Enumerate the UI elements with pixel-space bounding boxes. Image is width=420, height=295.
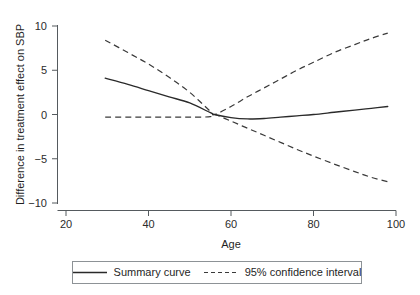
- y-tick-label-0: 0: [41, 109, 47, 121]
- series-line-summary-curve: [105, 78, 388, 119]
- legend-swatch-solid: [73, 269, 107, 276]
- y-tick-label-neg10: −10: [28, 197, 47, 209]
- chart-legend: Summary curve 95% confidence interval: [72, 261, 362, 284]
- x-tick-label-40: 40: [142, 218, 154, 230]
- y-axis: 10 5 0 −5 −10 Difference in treatment ef…: [14, 20, 58, 209]
- x-tick-label-60: 60: [225, 218, 237, 230]
- x-tick-label-80: 80: [307, 218, 319, 230]
- x-axis-title: Age: [221, 238, 241, 250]
- y-axis-ticks: [52, 26, 58, 203]
- legend-swatch-dashed: [204, 269, 238, 276]
- legend-entry-summary-curve: Summary curve: [73, 267, 191, 278]
- x-axis-tick-labels: 20 40 60 80 100: [60, 218, 405, 230]
- y-axis-tick-labels: 10 5 0 −5 −10: [28, 20, 47, 209]
- x-axis-ticks: [66, 211, 396, 217]
- y-tick-label-neg5: −5: [34, 153, 47, 165]
- legend-entry-confidence-interval: 95% confidence interval: [204, 267, 362, 278]
- legend-label-confidence-interval: 95% confidence interval: [245, 267, 362, 278]
- series-line-ci-upper: [105, 33, 388, 115]
- series-line-ci-lower: [105, 114, 388, 181]
- x-tick-label-100: 100: [387, 218, 405, 230]
- y-tick-label-10: 10: [35, 20, 47, 32]
- x-axis: 20 40 60 80 100 Age: [58, 211, 406, 251]
- y-axis-title: Difference in treatment effect on SBP: [14, 24, 26, 205]
- x-tick-label-20: 20: [60, 218, 72, 230]
- y-tick-label-5: 5: [41, 64, 47, 76]
- legend-label-summary-curve: Summary curve: [114, 267, 191, 278]
- chart-plot-area: 10 5 0 −5 −10 Difference in treatment ef…: [0, 0, 420, 295]
- chart-figure: 10 5 0 −5 −10 Difference in treatment ef…: [0, 0, 420, 295]
- chart-series-layer: [105, 33, 388, 182]
